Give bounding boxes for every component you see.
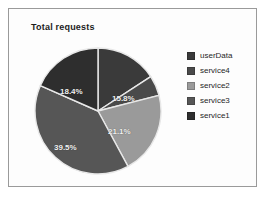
pie-slice-label: 18.4%: [60, 87, 83, 96]
pie-slice-label: 39.5%: [54, 143, 77, 152]
chart-title: Total requests: [31, 22, 95, 32]
legend-item-label: service2: [200, 82, 230, 90]
legend-item[interactable]: service2: [187, 79, 259, 92]
legend-item[interactable]: service1: [187, 109, 259, 122]
legend-swatch-icon: [187, 82, 195, 90]
pie-slice-label: 21.1%: [108, 127, 131, 136]
legend-item-label: service4: [200, 67, 230, 75]
legend-item-label: userData: [200, 52, 232, 60]
legend-item[interactable]: userData: [187, 49, 259, 62]
pie-slice-label: 15.8%: [112, 94, 135, 103]
legend-item[interactable]: service4: [187, 64, 259, 77]
legend-item-label: service3: [200, 97, 230, 105]
chart-legend: userDataservice4service2service3service1: [187, 49, 259, 124]
chart-frame: Total requests 15.8%21.1%39.5%18.4% user…: [8, 8, 257, 187]
legend-item-label: service1: [200, 112, 230, 120]
legend-item[interactable]: service3: [187, 94, 259, 107]
legend-swatch-icon: [187, 97, 195, 105]
legend-swatch-icon: [187, 112, 195, 120]
pie-chart: 15.8%21.1%39.5%18.4%: [34, 47, 162, 175]
legend-swatch-icon: [187, 52, 195, 60]
pie-slice-group: [35, 48, 161, 174]
legend-swatch-icon: [187, 67, 195, 75]
pie-svg: [34, 47, 162, 175]
